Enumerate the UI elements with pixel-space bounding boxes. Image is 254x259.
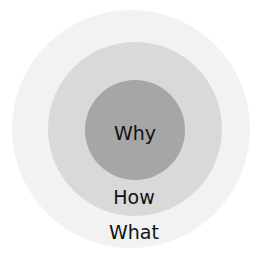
label-how: How: [113, 188, 154, 207]
label-why: Why: [114, 124, 156, 143]
label-what: What: [109, 223, 159, 242]
